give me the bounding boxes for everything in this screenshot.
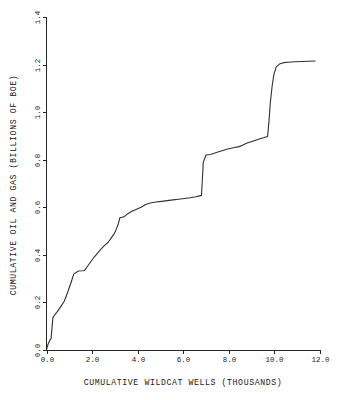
- cumulative-discovery-chart: 0.00.20.40.60.81.01.21.4 0.02.04.06.08.0…: [0, 0, 347, 400]
- y-tick-label: 0.4: [34, 248, 42, 262]
- y-tick-label: 0.6: [34, 200, 42, 214]
- y-tick-label: 1.4: [34, 10, 42, 24]
- x-axis-title: CUMULATIVE WILDCAT WELLS (THOUSANDS): [84, 378, 282, 387]
- x-tick-label: 4.0: [132, 356, 146, 364]
- y-tick-label: 1.0: [34, 105, 42, 119]
- x-tick-label: 12.0: [311, 356, 330, 364]
- y-tick-label: 1.2: [34, 59, 42, 73]
- x-tick-label: 8.0: [223, 356, 237, 364]
- y-tick-label: 0.8: [34, 154, 42, 168]
- x-tick-label: 0.0: [41, 356, 55, 364]
- x-tick-label: 10.0: [265, 356, 284, 364]
- x-tick-label: 6.0: [177, 356, 191, 364]
- x-tick-label: 2.0: [86, 356, 100, 364]
- y-tick-label: 0.2: [34, 296, 42, 310]
- y-axis-title: CUMULATIVE OIL AND GAS (BILLIONS OF BOE): [9, 75, 18, 296]
